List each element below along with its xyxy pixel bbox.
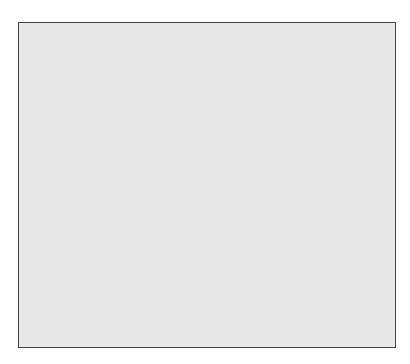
dot-plot-chart (0, 0, 410, 364)
